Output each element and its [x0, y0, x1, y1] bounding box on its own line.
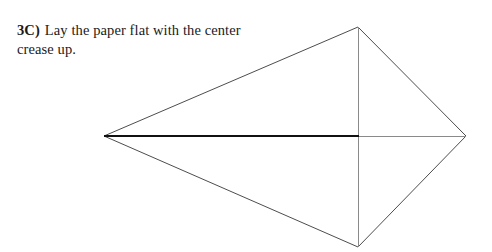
diagram-page: 3C)Lay the paper flat with the center cr… [0, 0, 492, 252]
origami-kite-fold-diagram [0, 0, 492, 252]
